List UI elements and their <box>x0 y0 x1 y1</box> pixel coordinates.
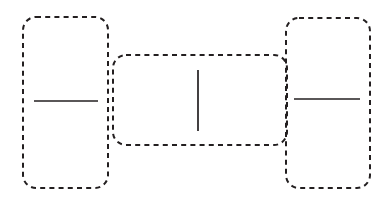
diagram-svg <box>0 0 391 199</box>
left-dashed-box[interactable] <box>23 17 108 188</box>
diagram-canvas <box>0 0 391 199</box>
right-dashed-box[interactable] <box>286 18 370 188</box>
middle-dashed-box[interactable] <box>113 55 287 145</box>
